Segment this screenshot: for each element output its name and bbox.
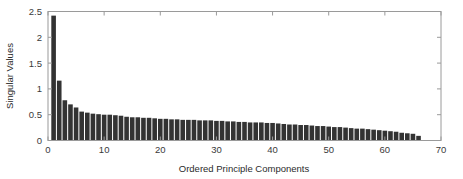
bar — [147, 118, 152, 141]
bar — [242, 122, 247, 141]
bar — [343, 128, 348, 141]
bar — [136, 117, 141, 140]
bar — [209, 120, 214, 140]
x-tick-label: 50 — [323, 144, 334, 155]
bar — [354, 129, 359, 141]
bar — [113, 115, 118, 140]
bar — [180, 120, 185, 141]
bar — [74, 107, 79, 140]
bar — [220, 121, 225, 141]
bar — [338, 127, 343, 140]
bar — [388, 131, 393, 140]
chart-canvas: 010203040506070 00.511.522.5 Ordered Pri… — [0, 0, 463, 179]
bar — [175, 119, 180, 140]
x-axis-title: Ordered Principle Components — [179, 163, 310, 174]
bar — [119, 116, 124, 141]
singular-values-figure: 010203040506070 00.511.522.5 Ordered Pri… — [0, 0, 463, 179]
bar — [225, 121, 230, 140]
bar — [411, 134, 416, 141]
figure-background — [0, 0, 463, 179]
bar — [203, 120, 208, 140]
bar — [248, 122, 253, 140]
bar — [130, 117, 135, 140]
bar — [293, 125, 298, 141]
bar — [68, 104, 73, 140]
y-tick-label: 0 — [37, 135, 42, 146]
bar — [360, 129, 365, 141]
bar — [265, 123, 270, 141]
bar — [253, 122, 258, 140]
bar — [377, 130, 382, 140]
bar — [310, 126, 315, 141]
bar — [192, 120, 197, 141]
bar — [321, 126, 326, 140]
x-tick-label: 0 — [45, 144, 50, 155]
y-tick-label: 2 — [37, 32, 42, 43]
bar — [124, 117, 129, 141]
bar — [107, 115, 112, 141]
bar — [169, 119, 174, 140]
bar — [282, 124, 287, 141]
y-tick-label: 0.5 — [29, 109, 42, 120]
bar — [164, 119, 169, 141]
bar — [315, 126, 320, 140]
bar — [85, 113, 90, 141]
bar — [405, 133, 410, 140]
x-tick-label: 10 — [99, 144, 110, 155]
bar — [57, 81, 62, 141]
x-tick-label: 40 — [267, 144, 278, 155]
y-tick-label: 2.5 — [29, 6, 42, 17]
bar — [371, 130, 376, 141]
y-tick-label: 1.5 — [29, 58, 42, 69]
bar — [276, 123, 281, 140]
x-tick-label: 70 — [436, 144, 447, 155]
bar — [231, 121, 236, 140]
bar — [287, 125, 292, 141]
y-tick-label: 1 — [37, 83, 42, 94]
bar — [416, 136, 421, 141]
bar — [237, 122, 242, 141]
bar — [186, 120, 191, 141]
bar — [259, 122, 264, 140]
bar — [96, 114, 101, 140]
bar — [304, 125, 309, 140]
bar — [366, 129, 371, 140]
bar — [298, 125, 303, 140]
y-axis-title: Singular Values — [4, 43, 15, 109]
bar — [79, 112, 84, 141]
x-tick-label: 60 — [380, 144, 391, 155]
bar — [399, 133, 404, 141]
bar — [332, 127, 337, 140]
x-tick-label: 20 — [155, 144, 166, 155]
bar — [197, 120, 202, 140]
bar — [141, 118, 146, 141]
bar — [63, 100, 68, 140]
bar — [91, 114, 96, 141]
x-tick-label: 30 — [211, 144, 222, 155]
bar — [51, 16, 56, 141]
bar — [349, 128, 354, 140]
bar — [394, 132, 399, 141]
bar — [152, 118, 157, 140]
